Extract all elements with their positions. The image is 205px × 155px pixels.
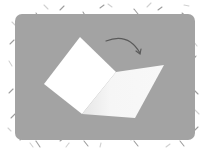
illustration-canvas: [0, 0, 205, 155]
